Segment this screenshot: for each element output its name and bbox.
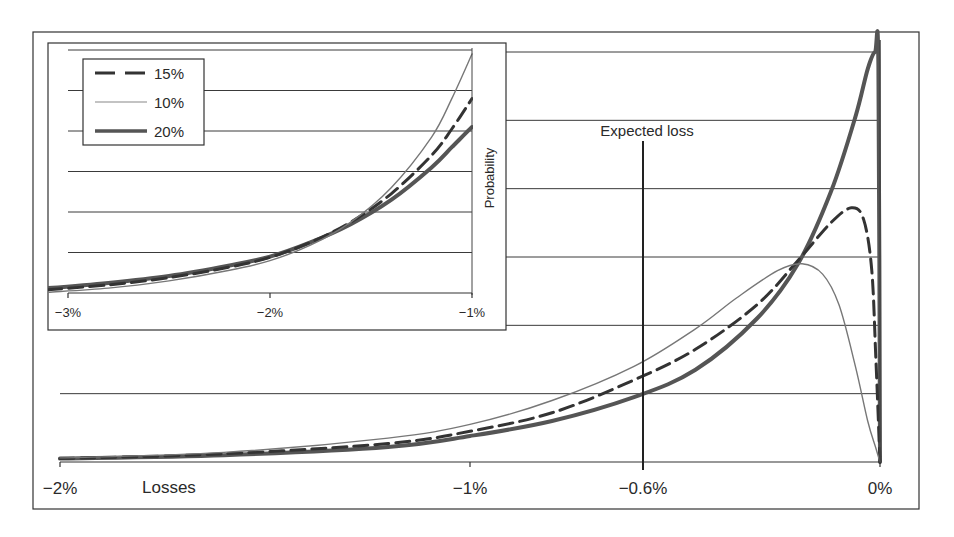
x-tick-label: 0% xyxy=(868,479,893,498)
loss-distribution-chart: −2%−1%−0.6%0% Expected loss Losses −3%−2… xyxy=(0,0,954,537)
x-tick-label: −3% xyxy=(55,305,82,320)
x-tick-label: −0.6% xyxy=(619,479,668,498)
x-axis-title-losses: Losses xyxy=(142,478,196,497)
expected-loss-label: Expected loss xyxy=(600,122,693,139)
legend-label-15: 15% xyxy=(154,65,184,82)
legend: 15% 10% 20% xyxy=(83,59,204,145)
legend-label-20: 20% xyxy=(154,123,184,140)
y-axis-title-probability: Probability xyxy=(482,147,497,208)
x-tick-label: −2% xyxy=(43,479,78,498)
x-tick-label: −2% xyxy=(257,305,284,320)
x-tick-label: −1% xyxy=(453,479,488,498)
legend-label-10: 10% xyxy=(154,94,184,111)
x-tick-label: −1% xyxy=(459,305,486,320)
